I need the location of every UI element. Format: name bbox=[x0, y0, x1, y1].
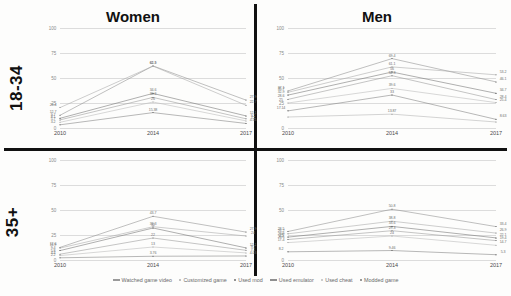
gridline bbox=[60, 260, 246, 261]
data-point bbox=[59, 118, 61, 119]
data-point bbox=[287, 237, 289, 238]
series-line bbox=[60, 66, 246, 108]
data-point bbox=[391, 250, 393, 251]
data-point bbox=[59, 122, 61, 123]
data-point bbox=[59, 107, 61, 108]
x-axis-tick-label: 2017 bbox=[490, 130, 502, 136]
x-axis-tick-label: 2010 bbox=[54, 130, 66, 136]
data-point-label: 38.8 bbox=[389, 216, 396, 220]
data-point-label: 32 bbox=[151, 223, 155, 227]
x-axis-tick-label: 2014 bbox=[147, 262, 159, 268]
legend-item[interactable]: Used mod bbox=[234, 277, 263, 283]
vertical-divider bbox=[254, 4, 257, 276]
data-point-label: 15.38 bbox=[149, 108, 158, 112]
data-point-label: 3.2 bbox=[51, 120, 56, 124]
data-point bbox=[59, 119, 61, 120]
data-point bbox=[59, 248, 61, 249]
data-point-label: 13 bbox=[151, 242, 155, 246]
data-point bbox=[495, 81, 497, 82]
data-point-label: 2.2 bbox=[51, 253, 56, 257]
data-point-label: 24 bbox=[390, 231, 394, 235]
data-point bbox=[245, 250, 247, 251]
gridline bbox=[288, 128, 496, 129]
data-point-label: 22 bbox=[151, 233, 155, 237]
data-point bbox=[495, 99, 497, 100]
y-axis-tick-label: 100 bbox=[276, 158, 286, 163]
legend-item[interactable]: Modded game bbox=[360, 277, 399, 283]
y-axis-tick-label: 75 bbox=[51, 51, 58, 56]
data-point bbox=[152, 238, 154, 239]
data-point bbox=[245, 232, 247, 233]
data-point-label: 9.46 bbox=[389, 246, 396, 250]
data-point bbox=[495, 74, 497, 75]
y-axis-tick-label: 25 bbox=[51, 233, 58, 238]
data-point-label: 61.1 bbox=[389, 62, 396, 66]
data-point bbox=[287, 99, 289, 100]
panel-men-18-34: Men 025507510020102014201737.169.446.135… bbox=[262, 6, 502, 146]
legend-label: Customized game bbox=[183, 277, 226, 283]
data-point-label: 5.3 bbox=[501, 250, 506, 254]
series-line bbox=[60, 113, 246, 125]
legend-label: Used emulator bbox=[279, 277, 314, 283]
data-point bbox=[287, 233, 289, 234]
data-point bbox=[287, 231, 289, 232]
data-point-label: 24 bbox=[251, 231, 255, 235]
data-point-label: 20.4 bbox=[50, 103, 57, 107]
data-point bbox=[152, 228, 154, 229]
x-axis-tick-label: 2017 bbox=[240, 130, 252, 136]
data-point-label: 22.7 bbox=[250, 100, 257, 104]
data-point bbox=[287, 242, 289, 243]
data-point bbox=[495, 254, 497, 255]
legend-item[interactable]: Watched game video bbox=[113, 277, 172, 283]
data-point-label: 19.4 bbox=[500, 236, 507, 240]
data-point-label: 29.3 bbox=[389, 226, 396, 230]
data-point-label: 4.55 bbox=[250, 118, 257, 122]
data-point bbox=[287, 95, 289, 96]
data-point bbox=[495, 245, 497, 246]
data-point bbox=[391, 114, 393, 115]
y-axis-tick-label: 75 bbox=[51, 183, 58, 188]
row-label-35-plus: 35+ bbox=[3, 207, 23, 237]
data-point bbox=[391, 58, 393, 59]
legend-item[interactable]: Used emulator bbox=[270, 277, 314, 283]
legend-swatch-icon bbox=[360, 279, 362, 281]
data-point-label: 26 bbox=[151, 97, 155, 101]
data-point-label: 33.4 bbox=[500, 222, 507, 226]
data-point bbox=[495, 93, 497, 94]
horizontal-divider bbox=[4, 148, 507, 151]
y-axis-tick-label: 100 bbox=[49, 158, 59, 163]
data-point-label: 34.7 bbox=[500, 88, 507, 92]
data-point bbox=[245, 123, 247, 124]
data-point-label: 33 bbox=[390, 90, 394, 94]
data-point bbox=[287, 117, 289, 118]
data-point bbox=[245, 236, 247, 237]
data-point bbox=[495, 240, 497, 241]
data-point bbox=[495, 226, 497, 227]
data-point-label: 4.03 bbox=[250, 251, 257, 255]
plot-area: 025507510020102014201712.762.127.920.461… bbox=[60, 28, 246, 128]
gridline bbox=[288, 260, 496, 261]
data-point bbox=[245, 105, 247, 106]
data-point bbox=[495, 237, 497, 238]
data-point bbox=[152, 216, 154, 217]
x-axis-tick-label: 2010 bbox=[282, 262, 294, 268]
data-point-label: 39.6 bbox=[389, 83, 396, 87]
legend-item[interactable]: Used cheat bbox=[321, 277, 353, 283]
data-point-label: 25.4 bbox=[500, 98, 507, 102]
data-point-label: 46.1 bbox=[500, 77, 507, 81]
data-point-label: 3.76 bbox=[150, 251, 157, 255]
data-point bbox=[495, 102, 497, 103]
data-point bbox=[245, 120, 247, 121]
data-point bbox=[245, 255, 247, 256]
data-point bbox=[59, 250, 61, 251]
x-axis-tick-label: 2010 bbox=[54, 262, 66, 268]
data-point bbox=[245, 247, 247, 248]
data-point bbox=[152, 112, 154, 113]
data-point-label: 27.9 bbox=[250, 95, 257, 99]
legend-label: Watched game video bbox=[122, 277, 172, 283]
data-point bbox=[287, 90, 289, 91]
legend-swatch-icon bbox=[270, 279, 277, 280]
legend-item[interactable]: Customized game bbox=[179, 277, 227, 283]
y-axis-tick-label: 50 bbox=[51, 76, 58, 81]
data-point bbox=[59, 124, 61, 125]
